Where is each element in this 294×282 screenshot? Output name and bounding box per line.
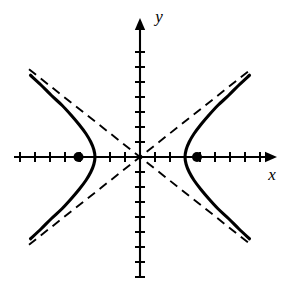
x-axis-label: x [267, 165, 276, 184]
hyperbola-figure: x y [0, 0, 294, 282]
focus-left [74, 152, 84, 162]
y-axis-label: y [153, 7, 163, 26]
focus-right [192, 152, 202, 162]
figure-canvas: x y [0, 0, 294, 282]
